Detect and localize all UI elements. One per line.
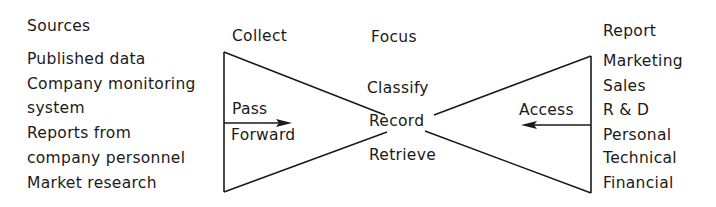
report-item: Personal bbox=[603, 128, 671, 144]
right-funnel-bottom bbox=[425, 131, 591, 193]
report-item: Technical bbox=[603, 151, 677, 167]
report-item: Financial bbox=[603, 176, 674, 192]
report-item: R & D bbox=[603, 103, 649, 119]
forward-label: Forward bbox=[231, 128, 295, 144]
source-item: Company monitoring bbox=[27, 77, 196, 93]
focus-step-record: Record bbox=[369, 114, 424, 130]
pass-label: Pass bbox=[232, 102, 268, 118]
focus-step-retrieve: Retrieve bbox=[369, 148, 436, 164]
report-item: Marketing bbox=[603, 54, 683, 70]
source-item: Reports from bbox=[27, 126, 131, 142]
heading-report: Report bbox=[603, 24, 656, 40]
source-item: system bbox=[27, 101, 85, 117]
source-item: Published data bbox=[27, 52, 146, 68]
source-item: company personnel bbox=[27, 151, 185, 167]
report-item: Sales bbox=[603, 79, 646, 95]
source-item: Market research bbox=[27, 176, 157, 192]
heading-focus: Focus bbox=[371, 30, 417, 46]
focus-step-classify: Classify bbox=[367, 81, 429, 97]
access-label: Access bbox=[519, 103, 574, 119]
heading-sources: Sources bbox=[27, 19, 90, 35]
heading-collect: Collect bbox=[232, 29, 287, 45]
